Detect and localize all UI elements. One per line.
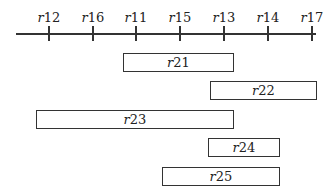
tick-r16 [92,26,93,41]
tick-label-r14: r14 [257,10,280,25]
interval-box-r21: r21 [123,53,234,72]
tick-label-r15: r15 [169,10,192,25]
interval-box-r24: r24 [208,138,280,157]
tick-r11 [135,26,136,41]
interval-box-r25: r25 [162,167,280,186]
tick-label-r13: r13 [213,10,236,25]
tick-label-r11: r11 [125,10,148,25]
interval-label: r25 [210,169,233,184]
tick-label-r17: r17 [301,10,324,25]
tick-label-r16: r16 [82,10,105,25]
interval-box-r23: r23 [36,110,234,129]
tick-r15 [179,26,180,41]
interval-label: r22 [252,83,275,98]
tick-r14 [267,26,268,41]
interval-label: r24 [233,140,256,155]
tick-r17 [311,26,312,41]
tick-r12 [48,26,49,41]
interval-label: r23 [124,112,147,127]
tick-label-r12: r12 [38,10,61,25]
tick-r13 [223,26,224,41]
interval-label: r21 [167,55,190,70]
interval-box-r22: r22 [210,81,317,100]
axis-line [16,33,316,35]
